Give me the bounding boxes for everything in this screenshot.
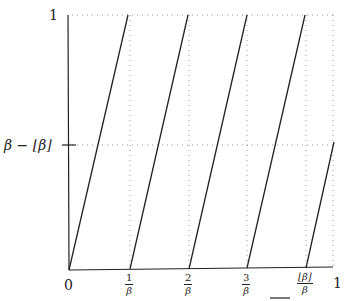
x-tick-3-over-beta: 3 β: [242, 273, 250, 296]
x-label-zero: 0: [64, 278, 73, 292]
y-label-beta-frac: β − ⌊β⌋: [4, 138, 52, 152]
y-label-one: 1: [49, 8, 58, 22]
branches: [69, 15, 334, 270]
x-axis: [69, 267, 333, 270]
beta-transformation-plot: [0, 0, 351, 301]
x-tick-2-over-beta: 2 β: [184, 273, 192, 296]
grid-lines: [72, 15, 333, 268]
x-tick-1-over-beta: 1 β: [125, 273, 133, 296]
x-label-one: 1: [333, 276, 342, 290]
x-tick-floor-beta-over-beta: ⌊β⌋ β: [297, 272, 313, 295]
y-axis: [68, 15, 69, 270]
